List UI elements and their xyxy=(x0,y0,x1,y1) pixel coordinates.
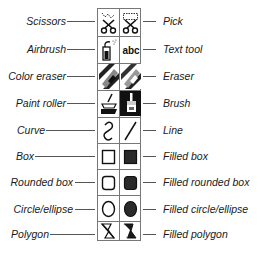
label-box: Box xyxy=(16,150,34,162)
paint-roller-icon xyxy=(99,91,119,116)
label-paint-roller: Paint roller xyxy=(16,97,66,109)
rounded-box-icon xyxy=(99,171,118,195)
tool-text[interactable]: abc xyxy=(120,37,141,62)
tool-airbrush[interactable] xyxy=(98,37,119,62)
label-filled-circle-ellipse: Filled circle/ellipse xyxy=(163,203,248,215)
eraser-icon xyxy=(121,64,141,89)
label-text-tool: Text tool xyxy=(163,43,202,55)
filled-ellipse-icon xyxy=(121,197,140,221)
leader-line xyxy=(46,130,95,131)
leader-line xyxy=(143,209,156,210)
tool-palette: abc xyxy=(97,8,141,241)
leader-line xyxy=(67,76,95,77)
tool-filled-polygon[interactable] xyxy=(120,222,141,240)
curve-icon xyxy=(99,119,118,143)
leader-line xyxy=(143,76,156,77)
tool-pick[interactable] xyxy=(120,10,141,35)
leader-line xyxy=(143,182,156,183)
filled-polygon-icon xyxy=(121,222,140,240)
tool-rounded-box[interactable] xyxy=(98,170,119,195)
label-circle-ellipse: Circle/ellipse xyxy=(13,203,73,215)
brush-icon xyxy=(121,91,141,116)
tool-paint-roller[interactable] xyxy=(98,91,119,116)
tool-polygon[interactable] xyxy=(98,222,119,240)
label-brush: Brush xyxy=(163,97,190,109)
tool-box[interactable] xyxy=(98,144,119,169)
airbrush-icon xyxy=(99,38,118,62)
tool-filled-box[interactable] xyxy=(120,144,141,169)
label-filled-box: Filled box xyxy=(163,150,208,162)
leader-line xyxy=(143,234,156,235)
leader-line xyxy=(143,156,156,157)
tool-line[interactable] xyxy=(120,118,141,143)
scissors-icon xyxy=(99,11,118,35)
label-eraser: Eraser xyxy=(163,70,194,82)
pick-icon xyxy=(121,11,140,35)
box-icon xyxy=(99,145,118,169)
tool-ellipse[interactable] xyxy=(98,196,119,221)
text-tool-icon: abc xyxy=(121,38,141,62)
leader-line xyxy=(143,21,156,22)
ellipse-icon xyxy=(99,197,118,221)
leader-line xyxy=(67,103,95,104)
line-icon xyxy=(121,119,140,143)
label-filled-rounded-box: Filled rounded box xyxy=(163,176,249,188)
tool-filled-rounded-box[interactable] xyxy=(120,170,141,195)
leader-line xyxy=(143,49,156,50)
leader-line xyxy=(50,234,95,235)
tool-scissors[interactable] xyxy=(98,10,119,35)
filled-rounded-box-icon xyxy=(121,171,140,195)
label-rounded-box: Rounded box xyxy=(11,176,73,188)
tool-curve[interactable] xyxy=(98,118,119,143)
label-line: Line xyxy=(163,124,183,136)
tool-eraser[interactable] xyxy=(120,64,141,89)
leader-line xyxy=(143,130,156,131)
tool-brush[interactable] xyxy=(120,91,141,116)
leader-line xyxy=(143,103,156,104)
leader-line xyxy=(67,21,95,22)
label-polygon: Polygon xyxy=(11,228,49,240)
leader-line xyxy=(35,156,95,157)
label-airbrush: Airbrush xyxy=(27,43,66,55)
svg-text:abc: abc xyxy=(122,45,140,56)
tool-filled-ellipse[interactable] xyxy=(120,196,141,221)
label-filled-polygon: Filled polygon xyxy=(163,228,228,240)
tool-color-eraser[interactable] xyxy=(98,64,119,89)
filled-box-icon xyxy=(121,145,140,169)
label-color-eraser: Color eraser xyxy=(8,70,66,82)
polygon-icon xyxy=(99,222,118,240)
leader-line xyxy=(67,49,95,50)
label-scissors: Scissors xyxy=(26,15,66,27)
label-curve: Curve xyxy=(17,124,45,136)
leader-line xyxy=(75,182,95,183)
color-eraser-icon xyxy=(99,64,119,89)
label-pick: Pick xyxy=(163,15,183,27)
leader-line xyxy=(75,209,95,210)
